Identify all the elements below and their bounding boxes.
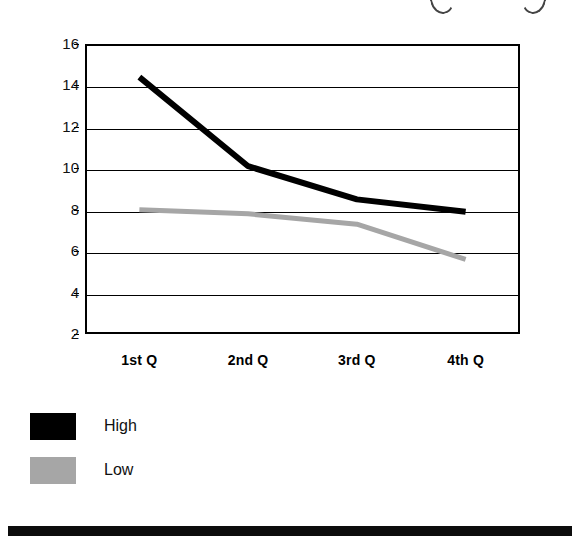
y-tick-label: 6 [33, 243, 79, 258]
legend-label-high: High [104, 418, 137, 434]
chart-legend: High Low [30, 404, 290, 492]
y-tick-label: 2 [33, 326, 79, 341]
y-tick-label: 10 [33, 160, 79, 175]
y-tick-label: 14 [33, 77, 79, 92]
bottom-black-bar [8, 526, 572, 536]
y-tick-mark [74, 210, 79, 211]
x-tick-label: 1st Q [121, 352, 157, 368]
y-tick-mark [74, 168, 79, 169]
y-tick-mark [74, 127, 79, 128]
y-tick-mark [74, 251, 79, 252]
y-tick-label: 12 [33, 119, 79, 134]
y-tick-label: 16 [33, 36, 79, 51]
x-tick-label: 2nd Q [228, 352, 269, 368]
series-line-low [139, 210, 465, 260]
legend-item-high: High [30, 404, 290, 448]
x-axis: 1st Q2nd Q3rd Q4th Q [85, 352, 520, 376]
x-tick-label: 3rd Q [338, 352, 376, 368]
legend-swatch-high [30, 413, 76, 440]
series-layer [85, 44, 520, 334]
line-chart-figure: 161412108642 1st Q2nd Q3rd Q4th Q [0, 0, 580, 400]
legend-item-low: Low [30, 448, 290, 492]
y-tick-mark [74, 334, 79, 335]
y-tick-mark [74, 293, 79, 294]
legend-swatch-low [30, 457, 76, 484]
y-tick-mark [74, 85, 79, 86]
y-tick-label: 4 [33, 285, 79, 300]
y-axis: 161412108642 [22, 44, 79, 334]
x-tick-label: 4th Q [447, 352, 484, 368]
series-line-high [139, 77, 465, 212]
y-tick-label: 8 [33, 202, 79, 217]
y-tick-mark [74, 44, 79, 45]
legend-label-low: Low [104, 462, 133, 478]
